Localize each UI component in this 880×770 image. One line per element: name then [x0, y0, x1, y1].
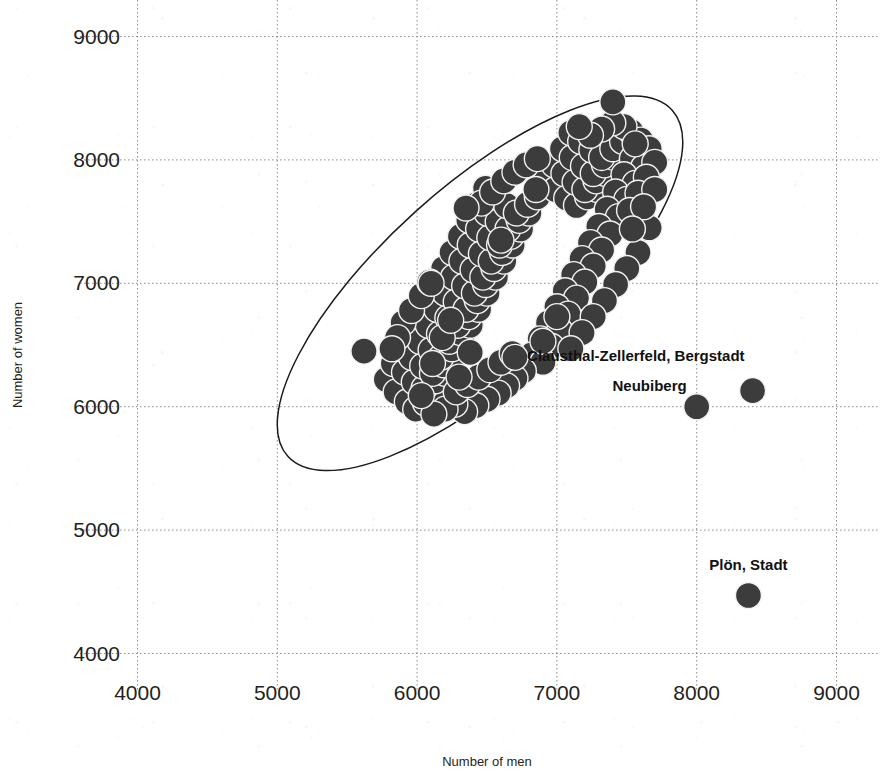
y-tick-labels-group: 400050006000700080009000	[73, 25, 120, 665]
data-point[interactable]	[619, 216, 645, 242]
data-point[interactable]	[446, 364, 472, 390]
data-point-outlier[interactable]	[453, 195, 479, 221]
data-point[interactable]	[419, 351, 445, 377]
data-point-outlier[interactable]	[351, 338, 377, 364]
y-axis-title: Number of women	[10, 302, 25, 408]
x-tick-label: 5000	[254, 681, 301, 704]
x-tick-label: 4000	[114, 681, 161, 704]
data-point-outlier[interactable]	[418, 270, 444, 296]
data-point-outlier[interactable]	[684, 394, 710, 420]
x-tick-label: 7000	[534, 681, 581, 704]
y-tick-label: 5000	[73, 518, 120, 541]
x-tick-label: 9000	[813, 681, 860, 704]
data-point[interactable]	[566, 114, 592, 140]
data-point[interactable]	[622, 131, 648, 157]
point-annotation-label: Plön, Stadt	[709, 556, 787, 573]
point-annotation-label: Clausthal-Zellerfeld, Bergstadt	[527, 347, 745, 364]
scatter-chart: 400050006000700080009000 400050006000700…	[0, 0, 880, 770]
y-tick-label: 7000	[73, 271, 120, 294]
data-point-outlier[interactable]	[488, 227, 514, 253]
data-point[interactable]	[379, 336, 405, 362]
data-point-outlier[interactable]	[600, 89, 626, 115]
data-point[interactable]	[408, 383, 434, 409]
plot-canvas: 400050006000700080009000 400050006000700…	[0, 0, 880, 770]
data-point[interactable]	[524, 146, 550, 172]
data-point[interactable]	[438, 307, 464, 333]
data-point-outlier[interactable]	[502, 344, 528, 370]
y-tick-label: 9000	[73, 25, 120, 48]
x-tick-labels-group: 400050006000700080009000	[114, 681, 860, 704]
x-tick-label: 8000	[673, 681, 720, 704]
y-tick-label: 8000	[73, 148, 120, 171]
data-point[interactable]	[457, 339, 483, 365]
x-axis-title: Number of men	[442, 754, 532, 769]
data-point-outlier[interactable]	[740, 378, 766, 404]
x-tick-label: 6000	[394, 681, 441, 704]
data-point-outlier[interactable]	[544, 304, 570, 330]
data-point-outlier[interactable]	[523, 177, 549, 203]
y-tick-label: 4000	[73, 642, 120, 665]
data-point-outlier[interactable]	[735, 583, 761, 609]
y-tick-label: 6000	[73, 395, 120, 418]
point-annotation-label: Neubiberg	[613, 377, 687, 394]
